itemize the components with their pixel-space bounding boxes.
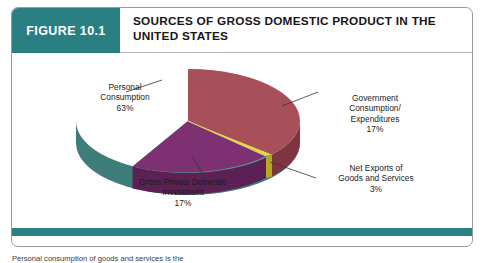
- footer-accent-bar: [12, 228, 472, 236]
- label-personal-line-2: Consumption: [80, 92, 170, 102]
- label-personal-consumption: Personal Consumption 63%: [80, 82, 170, 113]
- label-government-consumption: Government Consumption/ Expenditures 17%: [320, 93, 430, 135]
- label-investment-line-2: Investment: [118, 187, 248, 197]
- figure-number-label: FIGURE 10.1: [26, 24, 105, 38]
- label-government-line-3: Expenditures: [320, 114, 430, 124]
- source-note: Personal consumption of goods and servic…: [12, 254, 452, 263]
- figure-title-line-2: UNITED STATES: [133, 29, 453, 44]
- figure-title: SOURCES OF GROSS DOMESTIC PRODUCT IN THE…: [133, 14, 453, 43]
- label-net-exports-line-2: Goods and Services: [318, 173, 434, 183]
- label-personal-value: 63%: [80, 103, 170, 113]
- label-personal-line-1: Personal: [80, 82, 170, 92]
- figure-header: FIGURE 10.1 SOURCES OF GROSS DOMESTIC PR…: [12, 8, 472, 53]
- figure-number-badge: FIGURE 10.1: [12, 8, 120, 53]
- label-government-line-2: Consumption/: [320, 103, 430, 113]
- figure-container: FIGURE 10.1 SOURCES OF GROSS DOMESTIC PR…: [11, 7, 473, 247]
- label-net-exports: Net Exports of Goods and Services 3%: [318, 163, 434, 194]
- label-net-exports-line-1: Net Exports of: [318, 163, 434, 173]
- label-net-exports-value: 3%: [318, 184, 434, 194]
- label-investment-value: 17%: [118, 198, 248, 208]
- chart-labels: Personal Consumption 63% Government Cons…: [12, 53, 472, 224]
- figure-title-line-1: SOURCES OF GROSS DOMESTIC PRODUCT IN THE: [133, 14, 453, 29]
- label-investment-line-1: Gross Private Domestic: [118, 177, 248, 187]
- label-gross-private-domestic-investment: Gross Private Domestic Investment 17%: [118, 177, 248, 208]
- label-government-value: 17%: [320, 124, 430, 134]
- label-government-line-1: Government: [320, 93, 430, 103]
- chart-area: Personal Consumption 63% Government Cons…: [12, 53, 472, 224]
